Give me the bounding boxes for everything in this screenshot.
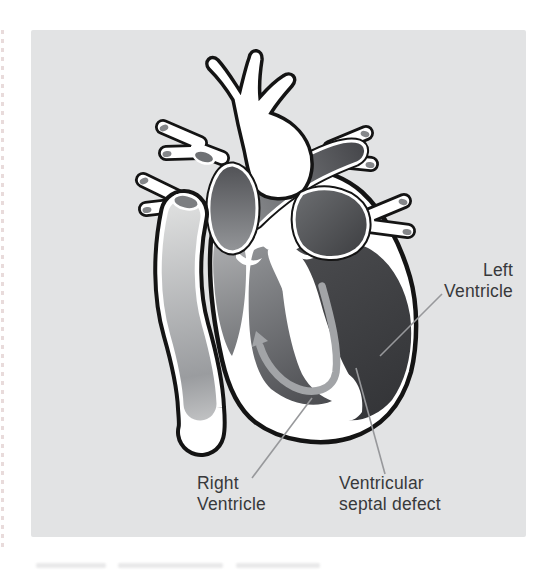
show-through-text-artifact <box>36 563 106 568</box>
show-through-text-artifact <box>118 563 223 568</box>
label-right-ventricle: Right Ventricle <box>197 473 266 514</box>
label-line: septal defect <box>339 494 441 515</box>
pulmonary-trunk <box>209 165 257 252</box>
label-line: Right <box>197 473 266 494</box>
label-line: Ventricular <box>339 473 441 494</box>
label-ventricular-septal-defect: Ventricular septal defect <box>339 473 441 514</box>
label-line: Ventricle <box>444 281 513 302</box>
show-through-text-artifact <box>236 563 320 568</box>
label-left-ventricle: Left Ventricle <box>444 260 513 301</box>
superior-vena-cava <box>178 214 202 432</box>
left-atrium <box>294 189 368 258</box>
scanned-book-page: { "panel": { "bg": "#e2e3e4" }, "labels"… <box>0 0 555 573</box>
label-line: Left <box>444 260 513 281</box>
label-line: Ventricle <box>197 494 266 515</box>
